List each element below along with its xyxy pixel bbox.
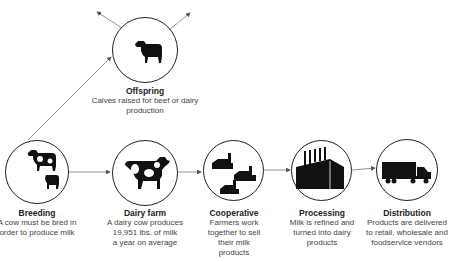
dairy-cow-icon xyxy=(113,141,179,207)
dairy-circle xyxy=(112,140,178,206)
processing-circle xyxy=(291,140,352,201)
breeding-circle xyxy=(5,140,69,204)
cooperative-desc: Farmers work together to sell their milk… xyxy=(193,218,275,258)
distribution-desc: Products are delivered to retail, wholes… xyxy=(357,218,457,248)
processing-desc: Milk is refined and turned into dairy pr… xyxy=(277,218,367,248)
breeding-desc: A cow must be bred in order to produce m… xyxy=(0,218,84,238)
dairy-title: Dairy farm xyxy=(97,208,193,218)
cooperative-circle xyxy=(203,140,264,201)
breeding-title: Breeding xyxy=(0,208,84,218)
cow-and-calf-icon xyxy=(6,141,70,205)
cooperative-title: Cooperative xyxy=(193,208,275,218)
offspring-circle xyxy=(112,17,178,83)
dairy-desc: A dairy cow produces 19,951 lbs. of milk… xyxy=(97,218,193,248)
calf-icon xyxy=(113,18,179,84)
processing-title: Processing xyxy=(277,208,367,218)
offspring-title: Offspring xyxy=(95,86,195,96)
farm-buildings-icon xyxy=(204,141,265,202)
factory-icon xyxy=(292,141,353,202)
truck-icon xyxy=(377,140,439,202)
distribution-title: Distribution xyxy=(357,208,457,218)
distribution-circle xyxy=(376,139,438,201)
offspring-desc: Calves raised for beef or dairy producti… xyxy=(85,96,205,116)
arrow-processing-to-distribution xyxy=(352,168,375,170)
